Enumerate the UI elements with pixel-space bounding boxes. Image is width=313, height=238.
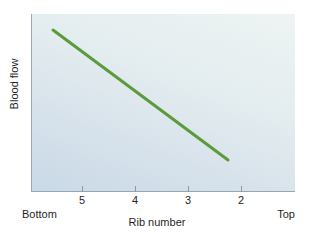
data-series-layer xyxy=(0,0,313,238)
y-axis-label: Blood flow xyxy=(8,45,20,123)
x-axis-left-endpoint-label: Bottom xyxy=(22,208,57,220)
x-axis-right-endpoint-label: Top xyxy=(243,208,295,220)
blood-flow-vs-rib-number-chart: 5432 Blood flow Rib number Bottom Top xyxy=(0,0,313,238)
blood-flow-trend-line xyxy=(53,30,228,160)
x-axis-label: Rib number xyxy=(107,216,207,228)
